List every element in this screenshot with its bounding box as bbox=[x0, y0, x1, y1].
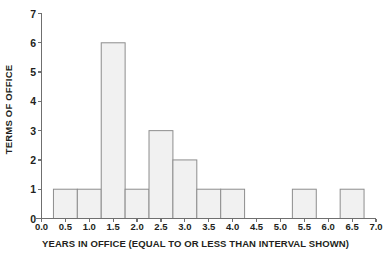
histogram-figure: TERMS OF OFFICE 01234567 0.00.51.01.52.0… bbox=[0, 0, 391, 267]
x-axis-title: YEARS IN OFFICE (EQUAL TO OR LESS THAN I… bbox=[0, 238, 391, 249]
histogram-bar bbox=[197, 189, 221, 218]
histogram-bar bbox=[125, 189, 149, 218]
histogram-bar bbox=[101, 43, 125, 219]
x-axis-tick-label: 7.0 bbox=[361, 222, 391, 232]
histogram-bar bbox=[292, 189, 316, 218]
bars-group bbox=[53, 43, 364, 219]
histogram-bar bbox=[149, 131, 173, 219]
histogram-bar bbox=[53, 189, 77, 218]
histogram-bar bbox=[221, 189, 245, 218]
x-axis-tick-labels: 0.00.51.01.52.02.53.03.54.04.55.05.56.06… bbox=[0, 222, 391, 236]
histogram-bar bbox=[173, 160, 197, 219]
histogram-bar bbox=[77, 189, 101, 218]
histogram-bar bbox=[340, 189, 364, 218]
